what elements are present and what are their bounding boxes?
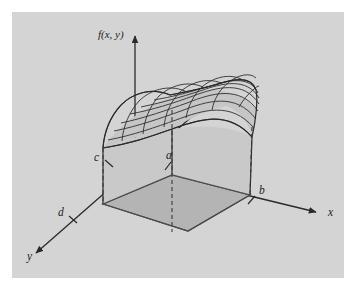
tick-label-b: b [259, 184, 265, 196]
tick-label-c: c [94, 151, 99, 163]
y-axis-label: y [26, 250, 33, 263]
tick-mark-b [248, 196, 255, 204]
f-axis-label: f(x, y) [98, 28, 124, 41]
x-axis-label: x [327, 206, 334, 218]
figure-root: f(x, y) x y a b c d [0, 0, 356, 291]
tick-label-d: d [58, 206, 64, 218]
tick-mark-d [69, 216, 77, 223]
tick-label-a: a [166, 149, 172, 161]
diagram-canvas: f(x, y) x y a b c d [0, 0, 356, 291]
